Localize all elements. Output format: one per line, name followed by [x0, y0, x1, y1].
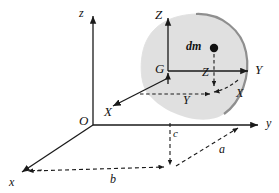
- label-fixed-x: x: [9, 176, 14, 188]
- physics-diagram-canvas: z y x O Z Y X G dm Z Y X a b c: [0, 0, 279, 193]
- label-body-X: X: [104, 105, 112, 118]
- label-coord-X: X: [236, 87, 243, 99]
- label-dim-b: b: [110, 173, 116, 185]
- label-body-Z: Z: [155, 8, 162, 21]
- label-coord-Y: Y: [183, 94, 190, 106]
- label-fixed-z: z: [79, 7, 84, 19]
- label-fixed-y: y: [266, 117, 271, 129]
- label-body-Y: Y: [255, 63, 262, 76]
- label-coord-Z: Z: [202, 66, 209, 78]
- label-origin-O: O: [79, 114, 88, 127]
- fixed-axis-x: [22, 125, 93, 172]
- mass-element-dot: [210, 44, 218, 52]
- label-dim-a: a: [219, 143, 225, 155]
- label-mass-element-dm: dm: [186, 40, 201, 52]
- label-centroid-G: G: [155, 62, 164, 75]
- label-dim-c: c: [173, 128, 178, 139]
